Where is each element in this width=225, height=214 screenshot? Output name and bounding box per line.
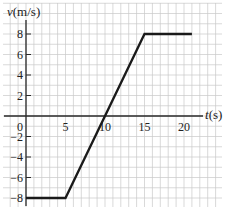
y-tick-label: −4 xyxy=(10,150,23,164)
x-tick-label: 15 xyxy=(139,120,151,134)
y-tick-label: 8 xyxy=(17,27,23,41)
x-axis-unit: (s) xyxy=(209,107,223,122)
y-tick-label: −8 xyxy=(10,191,23,205)
x-tick-label: 5 xyxy=(63,120,69,134)
y-axis-unit: (m/s) xyxy=(13,4,40,19)
x-tick-label: 20 xyxy=(178,120,190,134)
y-tick-label: 6 xyxy=(17,48,23,62)
origin-label: 0 xyxy=(17,120,23,134)
y-tick-label: 4 xyxy=(17,68,23,82)
velocity-time-chart: 8642−2−4−6−851015200 v(m/s) t(s) xyxy=(0,0,225,214)
y-axis-title: v(m/s) xyxy=(7,4,40,19)
y-tick-label: −6 xyxy=(10,171,23,185)
x-axis-title: t(s) xyxy=(205,107,222,122)
y-tick-label: 2 xyxy=(17,89,23,103)
